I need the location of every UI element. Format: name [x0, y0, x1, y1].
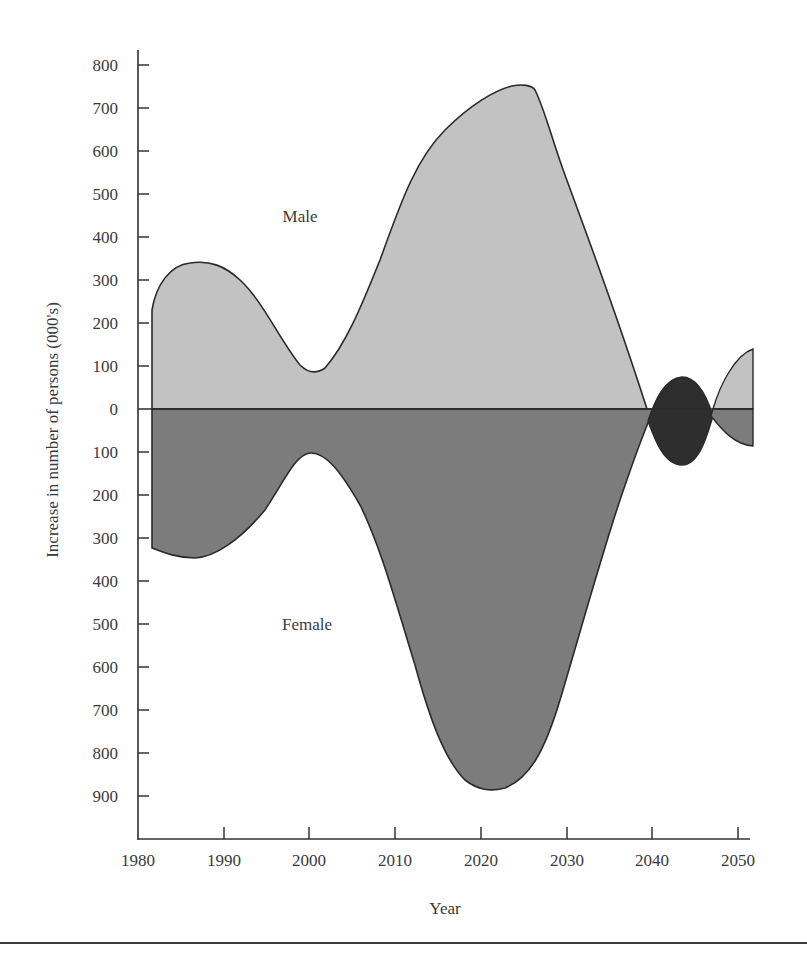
y-tick-labels: 800 700 600 500 400 300 200 100 0 100 20… — [93, 56, 119, 806]
male-label: Male — [283, 207, 318, 226]
overlap-lobe-2040s — [648, 377, 713, 465]
y-tick-label: 600 — [93, 142, 119, 161]
x-axis-title: Year — [429, 899, 461, 918]
x-tick-label: 2050 — [721, 851, 755, 870]
y-tick-label: 700 — [93, 99, 119, 118]
male-area — [152, 85, 647, 409]
y-tick-label: 500 — [93, 615, 119, 634]
y-tick-label: 600 — [93, 658, 119, 677]
y-tick-label: 700 — [93, 701, 119, 720]
y-tick-label: 200 — [93, 314, 119, 333]
y-axis-title: Increase in number of persons (000's) — [43, 302, 62, 558]
x-tick-label: 2020 — [464, 851, 498, 870]
y-tick-label: 400 — [93, 572, 119, 591]
female-lobe-2050 — [711, 409, 753, 446]
x-tick-label: 2010 — [378, 851, 412, 870]
x-tick-label: 2000 — [292, 851, 326, 870]
male-lobe-2050 — [713, 349, 753, 409]
y-tick-label: 300 — [93, 271, 119, 290]
y-tick-label: 800 — [93, 56, 119, 75]
female-area — [152, 409, 654, 790]
y-tick-label: 400 — [93, 228, 119, 247]
population-change-chart: 800 700 600 500 400 300 200 100 0 100 20… — [0, 0, 807, 965]
y-tick-label: 900 — [93, 787, 119, 806]
female-label: Female — [282, 615, 332, 634]
y-tick-label: 100 — [93, 357, 119, 376]
y-tick-label: 0 — [110, 400, 119, 419]
x-ticks — [224, 827, 738, 839]
y-tick-label: 100 — [93, 443, 119, 462]
y-tick-label: 300 — [93, 529, 119, 548]
x-tick-label: 2030 — [550, 851, 584, 870]
x-tick-labels: 1980 1990 2000 2010 2020 2030 2040 2050 — [121, 851, 755, 870]
bottom-rule — [0, 942, 807, 944]
x-tick-label: 1980 — [121, 851, 155, 870]
y-tick-label: 500 — [93, 185, 119, 204]
y-tick-label: 200 — [93, 486, 119, 505]
y-ticks — [138, 65, 149, 796]
x-tick-label: 2040 — [635, 851, 669, 870]
x-tick-label: 1990 — [207, 851, 241, 870]
y-tick-label: 800 — [93, 744, 119, 763]
